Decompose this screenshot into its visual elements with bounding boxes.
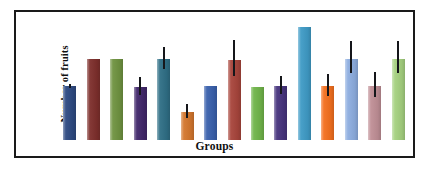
bar-group-8[interactable] xyxy=(228,16,241,140)
bar-group-10[interactable] xyxy=(274,16,287,140)
bar-group-14[interactable] xyxy=(368,16,381,140)
error-bar-14 xyxy=(374,72,376,98)
bar-gloss xyxy=(298,27,311,140)
bar-10[interactable] xyxy=(274,86,287,140)
bar-gloss xyxy=(204,86,217,140)
x-axis-label: Groups xyxy=(16,140,413,152)
error-bar-15 xyxy=(397,41,399,74)
error-bar-6 xyxy=(186,104,188,119)
plot-area xyxy=(58,16,410,140)
bar-11[interactable] xyxy=(298,27,311,140)
bar-gloss xyxy=(157,59,170,140)
bar-group-9[interactable] xyxy=(251,16,264,140)
error-bar-5 xyxy=(163,47,165,69)
bar-group-11[interactable] xyxy=(298,16,311,140)
bar-1[interactable] xyxy=(63,86,76,140)
bar-5[interactable] xyxy=(157,59,170,140)
bar-9[interactable] xyxy=(251,87,264,140)
bar-gloss xyxy=(274,86,287,140)
error-bar-13 xyxy=(350,41,352,74)
figure-frame: Number of fruits xyxy=(14,10,415,158)
bar-gloss xyxy=(251,87,264,140)
error-bar-8 xyxy=(233,40,235,77)
bar-2[interactable] xyxy=(87,59,100,140)
bar-group-12[interactable] xyxy=(321,16,334,140)
bar-group-5[interactable] xyxy=(157,16,170,140)
error-bar-4 xyxy=(139,77,141,95)
bar-group-1[interactable] xyxy=(63,16,76,140)
bar-group-6[interactable] xyxy=(181,16,194,140)
bar-group-15[interactable] xyxy=(392,16,405,140)
bar-group-4[interactable] xyxy=(134,16,147,140)
error-bar-1 xyxy=(69,84,71,88)
bar-group-3[interactable] xyxy=(110,16,123,140)
bar-chart-figure: Number of fruits xyxy=(0,0,427,169)
error-bar-10 xyxy=(280,76,282,94)
bar-group-13[interactable] xyxy=(345,16,358,140)
bar-group-2[interactable] xyxy=(87,16,100,140)
bar-gloss xyxy=(110,59,123,140)
bar-3[interactable] xyxy=(110,59,123,140)
bar-7[interactable] xyxy=(204,86,217,140)
bar-group-7[interactable] xyxy=(204,16,217,140)
bar-gloss xyxy=(63,86,76,140)
error-bar-12 xyxy=(327,74,329,96)
bar-gloss xyxy=(87,59,100,140)
